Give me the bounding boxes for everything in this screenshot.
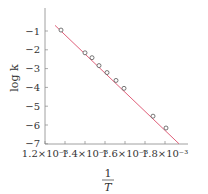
y-tick-label: −2 [25, 44, 40, 55]
chart: −1−2−3−4−5−6−7 1.2×10⁻³1.4×10⁻³1.6×10⁻³1… [0, 0, 208, 194]
y-tick-label: −5 [25, 101, 40, 112]
x-axis-title-denominator: T [104, 181, 113, 194]
y-tick-label: −3 [25, 63, 40, 74]
x-tick-label: 1.8×10⁻³ [142, 148, 188, 159]
data-point [90, 56, 94, 60]
fit-line-path [55, 25, 179, 143]
data-point [59, 28, 63, 32]
x-axis-title-numerator: 1 [105, 167, 112, 180]
data-point [122, 86, 126, 90]
data-point [105, 71, 109, 75]
data-point [97, 64, 101, 68]
data-point [151, 114, 155, 118]
y-tick-label: −1 [25, 26, 40, 37]
y-tick-label: −6 [25, 120, 40, 131]
fit-line [55, 25, 179, 143]
axes [45, 8, 188, 144]
x-axis-title: 1 T [102, 167, 114, 194]
y-tick-label: −4 [25, 82, 40, 93]
data-point [114, 78, 118, 82]
data-point [83, 51, 87, 55]
y-ticks: −1−2−3−4−5−6−7 [25, 26, 48, 150]
y-axis-title: log k [8, 64, 21, 92]
data-points [59, 28, 168, 130]
data-point [164, 126, 168, 130]
